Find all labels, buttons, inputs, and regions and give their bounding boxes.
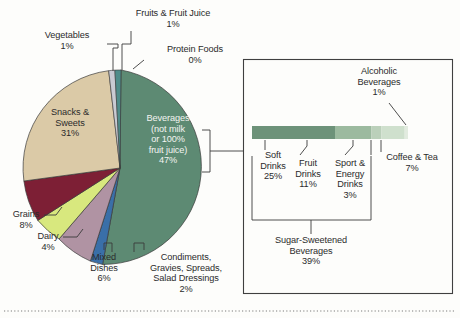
bracket-beverages xyxy=(202,130,210,172)
pie-label-beverages-name: Beverages xyxy=(135,113,201,124)
bar-segment-soft-drinks xyxy=(252,126,335,139)
inset-label-sugar-sweetened-beverages: Sugar-Sweetened Beverages 39% xyxy=(258,235,364,267)
pie-label-condiments: Condiments, Gravies, Spreads, Salad Dres… xyxy=(137,252,235,294)
pie-label-protein-foods-percent: 0% xyxy=(155,55,235,66)
inset-label-sugar-sweetened-name-1: Sugar-Sweetened xyxy=(258,235,364,246)
pie-label-beverages-percent: 47% xyxy=(135,155,201,166)
pie-label-grains: Grains 8% xyxy=(6,209,46,230)
inset-label-coffee-tea: Coffee & Tea 7% xyxy=(374,152,450,173)
pie-label-protein-foods: Protein Foods 0% xyxy=(155,44,235,65)
pie-label-mixed-dishes-name-2: Dishes xyxy=(78,263,130,274)
pie-label-condiments-percent: 2% xyxy=(137,284,235,295)
inset-label-sport-energy-drinks-name-1: Sport & xyxy=(324,158,376,169)
pie-label-snacks-sweets: Snacks & Sweets 31% xyxy=(25,107,115,139)
pie-label-dairy-percent: 4% xyxy=(31,242,65,253)
leader-fruits-fruit-juice xyxy=(122,31,131,70)
inset-label-sport-energy-drinks-percent: 3% xyxy=(324,190,376,201)
leader-sport-energy-drinks xyxy=(345,140,353,155)
bar-segment-coffee-tea xyxy=(382,126,405,139)
inset-label-sport-energy-drinks: Sport & Energy Drinks 3% xyxy=(324,158,376,200)
pie-label-mixed-dishes-name-1: Mixed xyxy=(78,252,130,263)
pie-label-fruits-fruit-juice-percent: 1% xyxy=(113,19,233,30)
inset-label-alcoholic-beverages: Alcoholic Beverages 1% xyxy=(338,66,420,98)
pie-label-fruits-fruit-juice: Fruits & Fruit Juice 1% xyxy=(113,8,233,29)
beverage-stacked-bar xyxy=(252,126,408,139)
pie-label-condiments-name-3: Salad Dressings xyxy=(137,273,235,284)
pie-label-dairy-name: Dairy xyxy=(31,231,65,242)
inset-label-coffee-tea-percent: 7% xyxy=(374,163,450,174)
inset-label-alcoholic-beverages-name-1: Alcoholic xyxy=(338,66,420,77)
pie-label-beverages-note-3: fruit juice) xyxy=(135,145,201,156)
pie-label-beverages-note-1: (not milk xyxy=(135,124,201,135)
pie-label-protein-foods-name: Protein Foods xyxy=(155,44,235,55)
leader-alcoholic-beverages xyxy=(389,103,406,125)
bar-segment-sport-energy-drinks xyxy=(372,126,382,139)
inset-label-sport-energy-drinks-name-2: Energy xyxy=(324,169,376,180)
bar-segment-alcoholic-beverages xyxy=(405,126,408,139)
pie-label-snacks-sweets-percent: 31% xyxy=(25,128,115,139)
pie-label-vegetables-name: Vegetables xyxy=(28,30,106,41)
pie-label-vegetables: Vegetables 1% xyxy=(28,30,106,51)
pie-label-grains-percent: 8% xyxy=(6,220,46,231)
figure-canvas: Fruits & Fruit Juice 1% Vegetables 1% Pr… xyxy=(0,0,460,318)
pie-label-mixed-dishes: Mixed Dishes 6% xyxy=(78,252,130,284)
pie-label-dairy: Dairy 4% xyxy=(31,231,65,252)
inset-label-alcoholic-beverages-name-2: Beverages xyxy=(338,77,420,88)
bar-segment-fruit-drinks xyxy=(335,126,372,139)
pie-label-beverages-note-2: or 100% xyxy=(135,134,201,145)
pie-label-snacks-sweets-name-1: Snacks & xyxy=(25,107,115,118)
pie-label-vegetables-percent: 1% xyxy=(28,41,106,52)
leader-protein-foods xyxy=(133,60,144,69)
pie-label-mixed-dishes-percent: 6% xyxy=(78,273,130,284)
inset-label-coffee-tea-name: Coffee & Tea xyxy=(374,152,450,163)
inset-label-sugar-sweetened-percent: 39% xyxy=(258,256,364,267)
inset-label-alcoholic-beverages-percent: 1% xyxy=(338,87,420,98)
pie-label-condiments-name-1: Condiments, xyxy=(137,252,235,263)
pie-label-snacks-sweets-name-2: Sweets xyxy=(25,118,115,129)
pie-label-condiments-name-2: Gravies, Spreads, xyxy=(137,263,235,274)
leader-fruit-drinks xyxy=(300,140,307,155)
inset-label-sport-energy-drinks-name-3: Drinks xyxy=(324,179,376,190)
leader-vegetables xyxy=(107,44,118,71)
pie-label-beverages: Beverages (not milk or 100% fruit juice)… xyxy=(135,113,201,166)
pie-label-grains-name: Grains xyxy=(6,209,46,220)
beverages-callout-bracket xyxy=(202,130,243,172)
inset-label-sugar-sweetened-name-2: Beverages xyxy=(258,246,364,257)
pie-label-fruits-fruit-juice-name: Fruits & Fruit Juice xyxy=(113,8,233,19)
